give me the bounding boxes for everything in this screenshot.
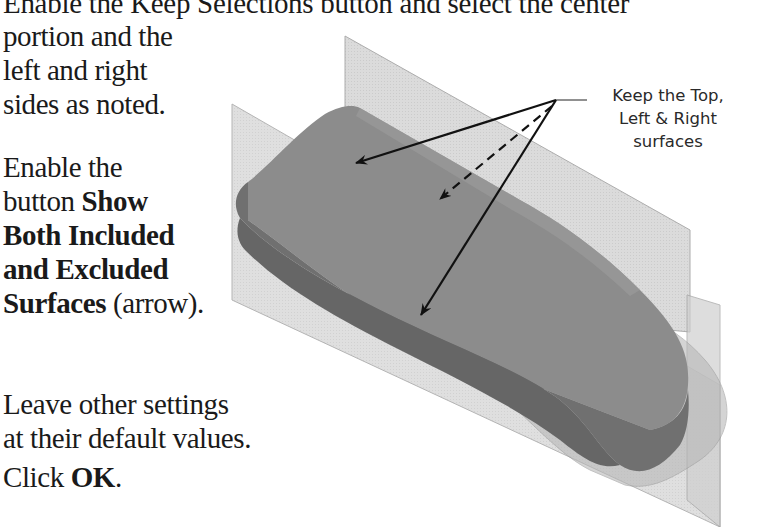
callout-line: surfaces	[588, 130, 748, 153]
callout-line: Left & Right	[588, 107, 748, 130]
model-illustration	[0, 0, 772, 527]
callout-keep-surfaces: Keep the Top, Left & Right surfaces	[588, 84, 748, 153]
callout-line: Keep the Top,	[588, 84, 748, 107]
